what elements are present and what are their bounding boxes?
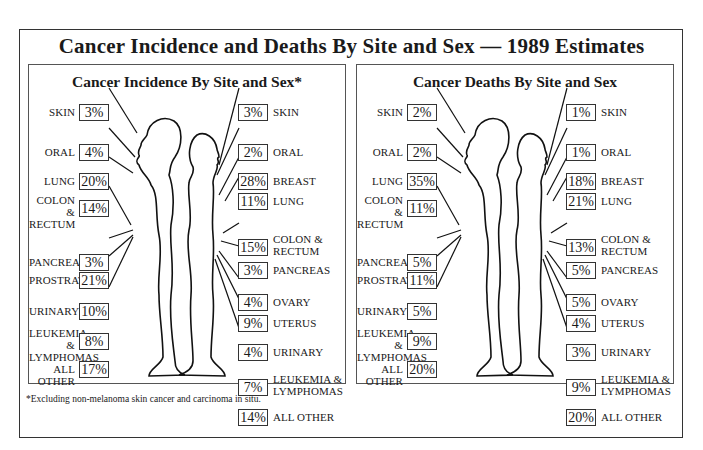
male-percent-box: 3% <box>79 104 109 121</box>
male-percent-box: 3% <box>79 254 109 271</box>
leader-line <box>547 157 567 195</box>
female-site-label: LEUKEMIA &LYMPHOMAS <box>273 373 343 397</box>
female-percent-box: 18% <box>566 173 596 190</box>
leader-line <box>217 128 239 175</box>
male-site-label: COLON &RECTUM <box>29 194 75 230</box>
female-silhouette-icon <box>179 134 225 376</box>
female-site-label: PANCREAS <box>601 264 658 276</box>
female-percent-box: 28% <box>238 173 268 190</box>
female-percent-box: 1% <box>566 144 596 161</box>
male-site-label: URINARY <box>357 305 403 317</box>
leader-line <box>547 88 567 165</box>
male-percent-box: 20% <box>407 361 437 378</box>
leader-line <box>545 255 567 299</box>
leader-line <box>223 223 239 233</box>
leader-line <box>215 259 239 328</box>
leader-line <box>217 255 239 299</box>
female-site-label: ALL OTHER <box>273 411 334 423</box>
female-percent-box: 20% <box>566 409 596 426</box>
female-percent-box: 4% <box>566 315 596 332</box>
male-site-label: PANCREAS <box>29 256 75 268</box>
female-silhouette-icon <box>507 134 553 376</box>
male-site-label: LEUKEMIA &LYMPHOMAS <box>357 327 403 363</box>
male-site-label: PROSTRATE <box>357 274 403 286</box>
female-percent-box: 3% <box>238 262 268 279</box>
male-site-label: LUNG <box>29 175 75 187</box>
male-silhouette-icon <box>137 119 185 376</box>
female-percent-box: 15% <box>238 239 268 256</box>
male-site-label: PANCREAS <box>357 256 403 268</box>
female-site-label: SKIN <box>601 106 627 118</box>
female-site-label: UTERUS <box>273 317 316 329</box>
leader-line <box>437 88 465 133</box>
female-percent-box: 21% <box>566 193 596 210</box>
female-site-label: URINARY <box>273 346 323 358</box>
male-percent-box: 5% <box>407 303 437 320</box>
leader-line <box>545 128 567 175</box>
male-percent-box: 4% <box>79 144 109 161</box>
male-percent-box: 35% <box>407 173 437 190</box>
deaths-panel: Cancer Deaths By Site and Sex SKIN 2% OR… <box>356 64 674 384</box>
female-site-label: ORAL <box>273 146 303 158</box>
male-site-label: ALL OTHER <box>357 363 403 387</box>
leader-line <box>437 157 461 173</box>
male-percent-box: 21% <box>79 272 109 289</box>
male-site-label: COLON &RECTUM <box>357 194 403 230</box>
leader-line <box>109 157 133 173</box>
male-silhouette-icon <box>465 119 513 376</box>
leader-line <box>109 128 135 157</box>
figure-title: Cancer Incidence and Deaths By Site and … <box>0 34 703 59</box>
leader-line <box>549 241 567 246</box>
female-site-label: OVARY <box>273 296 311 308</box>
female-percent-box: 9% <box>238 315 268 332</box>
female-site-label: UTERUS <box>601 317 644 329</box>
female-site-label: SKIN <box>273 106 299 118</box>
female-site-label: ORAL <box>601 146 631 158</box>
male-percent-box: 11% <box>407 200 437 217</box>
female-percent-box: 11% <box>238 193 268 210</box>
footnote: *Excluding non-melanoma skin cancer and … <box>26 394 261 404</box>
leader-line <box>109 237 133 287</box>
leader-line <box>219 88 239 165</box>
male-site-label: PROSTRATE <box>29 274 75 286</box>
leader-line <box>543 259 567 328</box>
leader-line <box>437 230 461 238</box>
female-site-label: LEUKEMIA &LYMPHOMAS <box>601 373 671 397</box>
female-site-label: PANCREAS <box>273 264 330 276</box>
male-site-label: SKIN <box>357 106 403 118</box>
male-site-label: ORAL <box>29 146 75 158</box>
male-percent-box: 2% <box>407 104 437 121</box>
male-site-label: LEUKEMIA &LYMPHOMAS <box>29 327 75 363</box>
leader-line <box>437 186 459 225</box>
male-site-label: SKIN <box>29 106 75 118</box>
female-site-label: LUNG <box>273 195 304 207</box>
male-percent-box: 20% <box>79 173 109 190</box>
male-percent-box: 14% <box>79 200 109 217</box>
male-percent-box: 10% <box>79 303 109 320</box>
male-percent-box: 17% <box>79 361 109 378</box>
male-percent-box: 5% <box>407 254 437 271</box>
female-percent-box: 3% <box>566 344 596 361</box>
female-site-label: OVARY <box>601 296 639 308</box>
leader-line <box>109 230 133 238</box>
female-percent-box: 5% <box>566 294 596 311</box>
female-percent-box: 1% <box>566 104 596 121</box>
male-site-label: URINARY <box>29 305 75 317</box>
leader-line <box>109 186 131 225</box>
female-percent-box: 2% <box>238 144 268 161</box>
male-percent-box: 11% <box>407 272 437 289</box>
male-percent-box: 9% <box>407 333 437 350</box>
leader-line <box>551 223 567 233</box>
female-site-label: LUNG <box>601 195 632 207</box>
female-percent-box: 4% <box>238 344 268 361</box>
incidence-panel: Cancer Incidence By Site and Sex* SKIN 3… <box>28 64 346 384</box>
female-site-label: COLON &RECTUM <box>601 233 651 257</box>
leader-line <box>437 237 461 287</box>
male-site-label: ALL OTHER <box>29 363 75 387</box>
female-percent-box: 4% <box>238 294 268 311</box>
leader-line <box>109 88 137 133</box>
leader-line <box>437 128 463 157</box>
female-site-label: URINARY <box>601 346 651 358</box>
male-site-label: LUNG <box>357 175 403 187</box>
male-site-label: ORAL <box>357 146 403 158</box>
